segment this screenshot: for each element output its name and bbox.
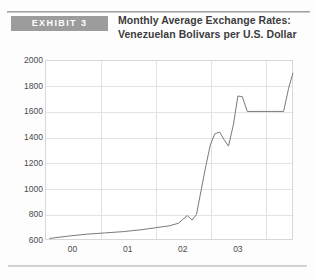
chart-title-line-1: Monthly Average Exchange Rates: [118, 14, 314, 28]
y-axis-tick-label: 2000 [7, 55, 43, 65]
y-axis-tick-label: 1400 [7, 132, 43, 142]
y-axis-tick-label: 1200 [7, 158, 43, 168]
y-axis-tick-label: 1000 [7, 184, 43, 194]
bottom-divider [8, 265, 307, 267]
y-axis-tick-label: 1800 [7, 81, 43, 91]
data-series-line [45, 60, 293, 240]
y-axis-tick-label: 1600 [7, 106, 43, 116]
x-axis-labels: 00010203 [45, 244, 293, 260]
x-axis-tick-label: 03 [233, 244, 242, 254]
top-divider [7, 11, 310, 13]
exhibit-number-badge: EXHIBIT 3 [11, 16, 108, 31]
chart-title: Monthly Average Exchange Rates: Venezuel… [118, 14, 314, 41]
x-axis-tick-label: 00 [68, 244, 77, 254]
x-axis-tick-label: 01 [123, 244, 132, 254]
x-axis-tick-label: 02 [178, 244, 187, 254]
series-polyline [49, 73, 293, 239]
exhibit-header: EXHIBIT 3 Monthly Average Exchange Rates… [11, 16, 307, 52]
chart-title-line-2: Venezuelan Bolivars per U.S. Dollar [118, 28, 314, 42]
y-axis-tick-label: 600 [7, 235, 43, 245]
y-axis-tick-label: 800 [7, 209, 43, 219]
line-chart: 600800100012001400160018002000 00010203 [0, 52, 316, 264]
